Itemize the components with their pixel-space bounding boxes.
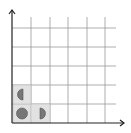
grid-diagram	[0, 0, 131, 133]
full-circle-icon	[17, 108, 28, 119]
